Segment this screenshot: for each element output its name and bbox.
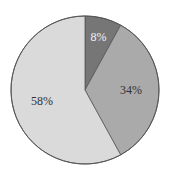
slice-label-34: 34% <box>120 83 142 97</box>
slice-label-58: 58% <box>31 94 53 108</box>
pie-chart: 8% 34% 58% <box>0 0 170 179</box>
slice-label-8: 8% <box>91 30 107 44</box>
